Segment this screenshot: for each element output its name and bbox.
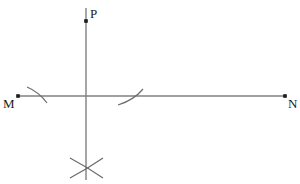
point-label-p: P <box>90 7 97 20</box>
point-marker-m <box>16 94 20 98</box>
construction-arc-left <box>27 87 47 103</box>
point-label-m: M <box>3 97 15 110</box>
point-marker-p <box>84 19 88 23</box>
point-marker-n <box>283 94 287 98</box>
construction-arc-right <box>118 89 143 105</box>
geometry-figure-canvas: M N P <box>0 0 300 184</box>
point-label-n: N <box>288 97 297 110</box>
geometry-drawing <box>0 0 300 184</box>
